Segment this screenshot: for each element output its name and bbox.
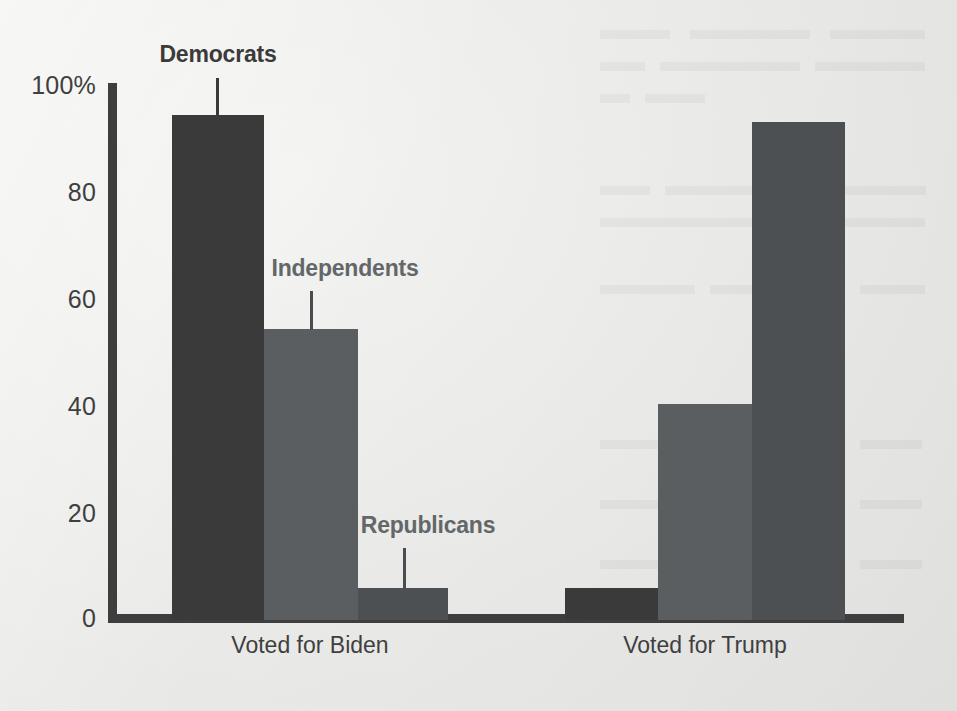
y-tick-label-40: 40 bbox=[0, 392, 96, 421]
y-tick-label-100: 100% bbox=[0, 71, 96, 100]
annotation-label-republicans: Republicans bbox=[361, 512, 496, 539]
annotation-label-independents: Independents bbox=[271, 255, 418, 282]
bar-biden-republicans bbox=[358, 588, 448, 620]
x-category-label-trump: Voted for Trump bbox=[623, 632, 787, 659]
bar-biden-democrats bbox=[172, 115, 264, 620]
y-axis-line bbox=[108, 83, 117, 623]
bar-trump-republicans bbox=[752, 122, 845, 620]
bar-biden-independents bbox=[264, 329, 358, 620]
annotation-leader-line-republicans bbox=[403, 548, 406, 588]
y-tick-label-0: 0 bbox=[0, 604, 96, 633]
chart-page: 100% 80 60 40 20 0 Voted for Biden Voted… bbox=[0, 0, 957, 711]
bar-chart-plot-area: 100% 80 60 40 20 0 Voted for Biden Voted… bbox=[0, 0, 957, 711]
y-tick-label-80: 80 bbox=[0, 178, 96, 207]
x-category-label-biden: Voted for Biden bbox=[231, 632, 388, 659]
annotation-label-democrats: Democrats bbox=[159, 41, 276, 68]
annotation-leader-line-independents bbox=[310, 291, 313, 330]
y-tick-label-20: 20 bbox=[0, 499, 96, 528]
bar-trump-democrats bbox=[565, 588, 658, 620]
annotation-leader-line-democrats bbox=[216, 78, 219, 117]
y-tick-label-60: 60 bbox=[0, 285, 96, 314]
bar-trump-independents bbox=[658, 404, 752, 620]
